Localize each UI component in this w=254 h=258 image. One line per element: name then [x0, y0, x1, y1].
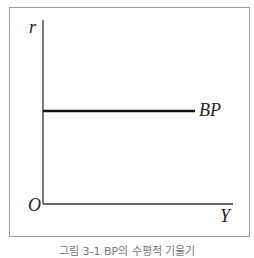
origin-label: O — [28, 195, 41, 216]
bp-curve-label: BP — [199, 100, 221, 121]
x-axis-label: Y — [220, 206, 230, 227]
y-axis-label: r — [29, 17, 36, 38]
figure-caption: 그림 3-1 BP의 수평적 기울기 — [0, 242, 254, 258]
